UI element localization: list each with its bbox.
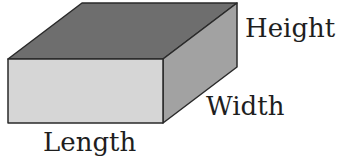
front-face (8, 59, 163, 123)
width-label: Width (206, 93, 284, 119)
height-label: Height (245, 15, 335, 41)
box-diagram: Height Width Length (0, 0, 338, 158)
length-label: Length (43, 129, 136, 155)
